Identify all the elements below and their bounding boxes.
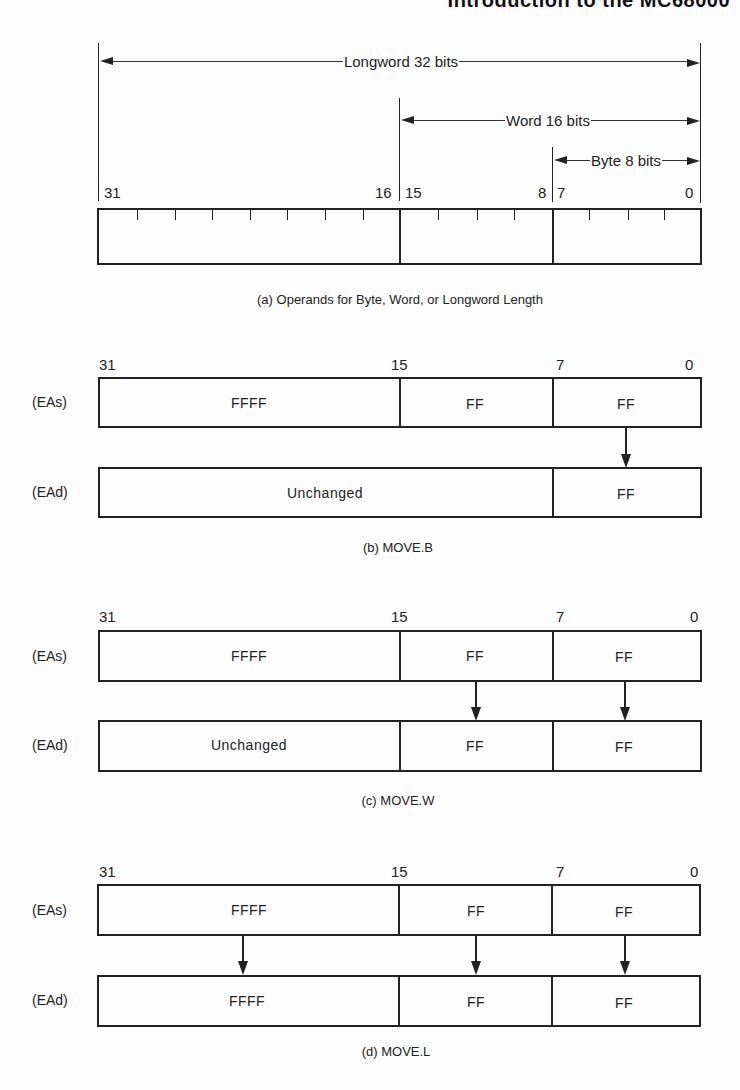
- longword-right-boundary: [700, 43, 701, 203]
- bit-15-label: 15: [391, 357, 408, 372]
- dest-high-word-value: FFFF: [229, 993, 265, 1009]
- bit-tick: [137, 210, 138, 220]
- page-header-title: Introduction to the MC68000: [448, 0, 730, 12]
- bit-tick: [250, 210, 251, 220]
- arrow-left-icon: [554, 156, 567, 164]
- dest-mid-byte-value: FF: [467, 994, 485, 1010]
- source-high-word-value: FFFF: [231, 395, 267, 411]
- bit-tick: [287, 210, 288, 220]
- longword-left-boundary: [98, 43, 99, 201]
- byte-divider: [552, 632, 554, 680]
- dest-low-byte-value: FF: [615, 739, 633, 755]
- source-mid-byte-value: FF: [466, 396, 484, 412]
- arrow-right-icon: [687, 59, 700, 67]
- source-ea-label: (EAs): [32, 648, 67, 664]
- bit-7-label: 7: [556, 609, 564, 624]
- byte-left-boundary: [552, 147, 553, 202]
- word-left-boundary: [399, 98, 400, 201]
- source-register-box: [98, 630, 702, 682]
- bit-tick: [175, 210, 176, 220]
- word-divider: [399, 379, 401, 426]
- bit-tick: [325, 210, 326, 220]
- byte-label: Byte 8 bits: [590, 152, 662, 169]
- bit-tick: [363, 210, 364, 220]
- dest-ea-label: (EAd): [32, 737, 68, 753]
- bit-tick: [438, 210, 439, 220]
- dest-register-box: [98, 720, 702, 772]
- dest-mid-byte-value: FF: [466, 738, 484, 754]
- dest-low-byte-value: FF: [617, 486, 635, 502]
- figure-d-caption: (d) MOVE.L: [362, 1044, 431, 1059]
- source-ea-label: (EAs): [32, 902, 67, 918]
- dest-unchanged-value: Unchanged: [211, 737, 287, 753]
- word-divider: [398, 977, 400, 1025]
- bit-0-label: 0: [685, 357, 693, 372]
- bit-tick: [589, 210, 590, 220]
- byte-divider: [552, 722, 554, 770]
- dest-ea-label: (EAd): [32, 992, 68, 1008]
- bit-tick: [628, 210, 629, 220]
- arrow-left-icon: [401, 116, 414, 124]
- bit-31-label: 31: [104, 185, 121, 200]
- dest-register-box: [97, 975, 701, 1027]
- dest-low-byte-value: FF: [615, 995, 633, 1011]
- source-low-byte-value: FF: [615, 904, 633, 920]
- bit-0-label: 0: [690, 864, 698, 879]
- word-divider: [399, 632, 401, 680]
- bit-tick: [664, 210, 665, 220]
- bit-0-label: 0: [690, 609, 698, 624]
- source-mid-byte-value: FF: [466, 648, 484, 664]
- byte-divider: [552, 379, 554, 426]
- byte-divider: [551, 977, 553, 1025]
- bit-15-label: 15: [405, 185, 422, 200]
- figure-a-caption: (a) Operands for Byte, Word, or Longword…: [257, 292, 543, 307]
- bit-15-label: 15: [391, 609, 408, 624]
- arrow-right-icon: [687, 117, 700, 125]
- bit-16-label: 16: [375, 185, 392, 200]
- source-high-word-value: FFFF: [231, 648, 267, 664]
- bit-7-label: 7: [556, 864, 564, 879]
- bit-0-label: 0: [685, 185, 693, 200]
- operand-register-box: [97, 208, 702, 265]
- byte-divider: [552, 210, 554, 263]
- word-divider: [399, 722, 401, 770]
- figure-c-caption: (c) MOVE.W: [362, 793, 435, 808]
- figure-b-caption: (b) MOVE.B: [363, 540, 433, 555]
- byte-divider: [551, 886, 553, 934]
- longword-label: Longword 32 bits: [343, 53, 459, 70]
- source-low-byte-value: FF: [617, 396, 635, 412]
- source-register-box: [98, 377, 702, 428]
- dest-ea-label: (EAd): [32, 484, 68, 500]
- arrow-left-icon: [100, 57, 113, 65]
- source-mid-byte-value: FF: [467, 903, 485, 919]
- bit-tick: [514, 210, 515, 220]
- source-low-byte-value: FF: [615, 649, 633, 665]
- source-high-word-value: FFFF: [231, 902, 267, 918]
- bit-tick: [477, 210, 478, 220]
- arrow-right-icon: [687, 157, 700, 165]
- bit-31-label: 31: [99, 609, 116, 624]
- bit-31-label: 31: [99, 864, 116, 879]
- bit-7-label: 7: [557, 185, 565, 200]
- source-register-box: [97, 884, 701, 936]
- word-divider: [399, 210, 401, 263]
- byte-divider: [552, 469, 554, 516]
- bit-31-label: 31: [99, 357, 116, 372]
- source-ea-label: (EAs): [32, 394, 67, 410]
- word-label: Word 16 bits: [505, 112, 591, 129]
- dest-register-box: [98, 467, 702, 518]
- bit-8-label: 8: [538, 185, 546, 200]
- word-divider: [398, 886, 400, 934]
- bit-7-label: 7: [556, 357, 564, 372]
- bit-tick: [212, 210, 213, 220]
- bit-15-label: 15: [391, 864, 408, 879]
- dest-unchanged-value: Unchanged: [287, 485, 363, 501]
